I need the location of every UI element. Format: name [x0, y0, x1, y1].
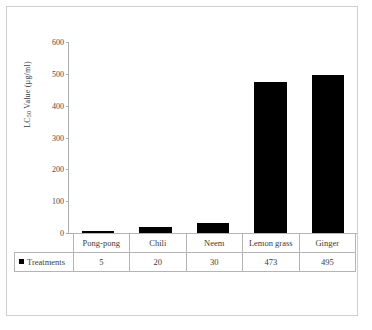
y-axis-tick-label: 600 — [52, 38, 64, 47]
chart-figure: LC50 Value (µg/ml) 0100200300400500600 P… — [0, 0, 372, 330]
value-cell: 30 — [186, 253, 243, 272]
y-axis-tick-label: 300 — [52, 133, 64, 142]
y-axis-tick-label: 100 — [52, 197, 64, 206]
y-axis-label-main: LC — [23, 117, 32, 128]
bar — [312, 75, 344, 233]
legend-cell: Treatments — [15, 253, 74, 272]
y-axis-label-rest: Value (µg/ml) — [23, 61, 32, 110]
bar-series — [69, 42, 357, 233]
bar-slot — [299, 42, 357, 233]
y-axis-tick-label: 200 — [52, 165, 64, 174]
category-header-cell: Lemon grass — [243, 234, 300, 253]
bar-slot — [69, 42, 127, 233]
value-cell: 495 — [299, 253, 356, 272]
data-table: Pong-pongChiliNeemLemon grassGingerTreat… — [14, 233, 356, 272]
bar-slot — [184, 42, 242, 233]
table-corner-cell — [15, 234, 74, 253]
y-axis-label: LC50 Value (µg/ml) — [23, 30, 32, 160]
legend-label: Treatments — [27, 257, 65, 267]
bar — [197, 223, 229, 233]
category-header-cell: Pong-pong — [73, 234, 130, 253]
bar-slot — [127, 42, 185, 233]
y-axis-tick-label: 400 — [52, 101, 64, 110]
table-row: Pong-pongChiliNeemLemon grassGinger — [15, 234, 356, 253]
value-cell: 473 — [243, 253, 300, 272]
value-cell: 20 — [130, 253, 187, 272]
category-header-cell: Neem — [186, 234, 243, 253]
y-axis-label-subscript: 50 — [26, 111, 32, 117]
value-cell: 5 — [73, 253, 130, 272]
legend-square-marker-icon — [19, 259, 24, 264]
bar — [254, 82, 286, 233]
y-axis-tick-label: 500 — [52, 69, 64, 78]
category-header-cell: Chili — [130, 234, 187, 253]
category-header-cell: Ginger — [299, 234, 356, 253]
plot-area: 0100200300400500600 — [68, 42, 357, 234]
table-row: Treatments52030473495 — [15, 253, 356, 272]
bar-slot — [242, 42, 300, 233]
